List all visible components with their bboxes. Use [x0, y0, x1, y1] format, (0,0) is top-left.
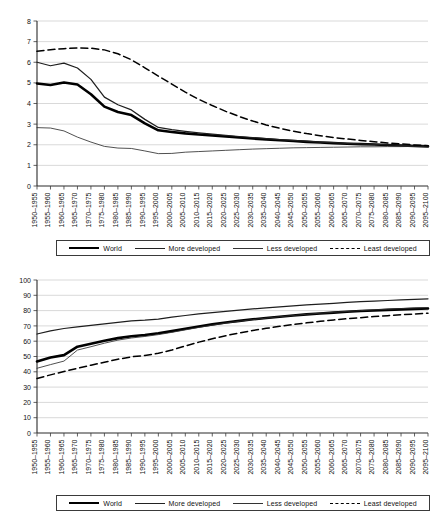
- legend-swatch-solid-med-icon: [135, 503, 165, 504]
- y-axis-tick-label: 2: [27, 141, 31, 148]
- legend-entry-world: World: [69, 245, 122, 252]
- life-expectancy-plot-area: 01020304050607080901001950–19551955–1960…: [0, 268, 444, 490]
- x-axis-tick-label: 1970–1975: [85, 439, 92, 474]
- y-axis-tick-label: 90: [23, 292, 31, 299]
- x-axis-tick-label: 2025–2030: [233, 439, 240, 474]
- x-axis-tick-label: 1975–1980: [98, 439, 105, 474]
- x-axis-tick-label: 1990–1995: [139, 439, 146, 474]
- x-axis-tick-label: 2065–2070: [341, 192, 348, 227]
- x-axis-tick-label: 2005–2010: [179, 192, 186, 227]
- y-axis-tick-label: 0: [27, 430, 31, 437]
- x-axis-tick-label: 2085–2090: [395, 439, 402, 474]
- fertility-chart-svg: 0123456781950–19551955–19601960–19651965…: [0, 0, 444, 233]
- x-axis-tick-label: 2020–2025: [220, 192, 227, 227]
- x-axis-tick-label: 1960–1965: [58, 439, 65, 474]
- life-expectancy-chart: 01020304050607080901001950–19551955–1960…: [0, 268, 444, 521]
- x-axis-tick-label: 2060–2065: [328, 192, 335, 227]
- x-axis-tick-label: 2005–2010: [179, 439, 186, 474]
- x-axis-tick-label: 2075–2080: [368, 439, 375, 474]
- legend-entry-least-developed: Least developed: [330, 245, 417, 252]
- x-axis-tick-label: 2090–2095: [409, 192, 416, 227]
- x-axis-tick-label: 2080–2085: [382, 192, 389, 227]
- legend-swatch-solid-med-icon: [135, 248, 165, 249]
- legend-swatch-dashed-icon: [330, 503, 360, 504]
- x-axis-tick-label: 2055–2060: [314, 192, 321, 227]
- x-axis-tick-label: 2040–2045: [274, 192, 281, 227]
- x-axis-tick-label: 2000–2005: [166, 439, 173, 474]
- x-axis-tick-label: 2075–2080: [368, 192, 375, 227]
- chart-page: 0123456781950–19551955–19601960–19651965…: [0, 0, 444, 521]
- x-axis-tick-label: 2000–2005: [166, 192, 173, 227]
- x-axis-tick-label: 1975–1980: [98, 192, 105, 227]
- x-axis-tick-label: 1955–1960: [44, 439, 51, 474]
- x-axis-tick-label: 1980–1985: [112, 439, 119, 474]
- series-line-less-developed: [37, 308, 428, 369]
- legend-swatch-dashed-icon: [330, 248, 360, 249]
- legend-swatch-solid-thin-icon: [233, 503, 263, 504]
- series-line-more-developed: [37, 128, 428, 154]
- y-axis-tick-label: 1: [27, 162, 31, 169]
- x-axis-tick-label: 2070–2075: [355, 439, 362, 474]
- y-axis-tick-label: 100: [19, 277, 31, 284]
- x-axis-tick-label: 1970–1975: [85, 192, 92, 227]
- y-axis-tick-label: 8: [27, 18, 31, 25]
- fertility-rate-chart: 0123456781950–19551955–19601960–19651965…: [0, 0, 444, 260]
- x-axis-tick-label: 1990–1995: [139, 192, 146, 227]
- legend-label: More developed: [169, 500, 221, 507]
- y-axis-tick-label: 5: [27, 79, 31, 86]
- x-axis-tick-label: 2095–2100: [422, 439, 429, 474]
- x-axis-tick-label: 1960–1965: [58, 192, 65, 227]
- legend-entry-more-developed: More developed: [135, 500, 221, 507]
- legend-label: More developed: [169, 245, 221, 252]
- x-axis-tick-label: 2015–2020: [206, 192, 213, 227]
- x-axis-tick-label: 2010–2015: [193, 439, 200, 474]
- y-axis-tick-label: 3: [27, 121, 31, 128]
- x-axis-tick-label: 2085–2090: [395, 192, 402, 227]
- x-axis-tick-label: 2060–2065: [328, 439, 335, 474]
- x-axis-tick-label: 1965–1970: [71, 192, 78, 227]
- x-axis-tick-label: 1955–1960: [44, 192, 51, 227]
- x-axis-tick-label: 1995–2000: [152, 439, 159, 474]
- legend-swatch-solid-thin-icon: [233, 248, 263, 249]
- x-axis-tick-label: 2045–2050: [287, 192, 294, 227]
- x-axis-tick-label: 1980–1985: [112, 192, 119, 227]
- y-axis-tick-label: 80: [23, 307, 31, 314]
- y-axis-tick-label: 6: [27, 59, 31, 66]
- x-axis-tick-label: 2025–2030: [233, 192, 240, 227]
- x-axis-tick-label: 2090–2095: [409, 439, 416, 474]
- fertility-chart-legend: WorldMore developedLess developedLeast d…: [56, 240, 430, 256]
- series-line-more-developed: [37, 299, 428, 334]
- x-axis-tick-label: 2050–2055: [301, 192, 308, 227]
- legend-entry-more-developed: More developed: [135, 245, 221, 252]
- legend-label: World: [103, 500, 122, 507]
- x-axis-tick-label: 2070–2075: [355, 192, 362, 227]
- x-axis-tick-label: 2030–2035: [247, 439, 254, 474]
- legend-label: Least developed: [364, 500, 417, 507]
- fertility-plot-area: 0123456781950–19551955–19601960–19651965…: [0, 0, 444, 233]
- life-expectancy-chart-svg: 01020304050607080901001950–19551955–1960…: [0, 268, 444, 490]
- y-axis-tick-label: 50: [23, 353, 31, 360]
- y-axis-tick-label: 4: [27, 100, 31, 107]
- x-axis-tick-label: 2035–2040: [260, 439, 267, 474]
- y-axis-tick-label: 10: [23, 414, 31, 421]
- x-axis-tick-label: 1995–2000: [152, 192, 159, 227]
- y-axis-tick-label: 20: [23, 399, 31, 406]
- y-axis-tick-label: 40: [23, 368, 31, 375]
- y-axis-tick-label: 7: [27, 38, 31, 45]
- y-axis-tick-label: 70: [23, 323, 31, 330]
- x-axis-tick-label: 2030–2035: [247, 192, 254, 227]
- x-axis-tick-label: 2055–2060: [314, 439, 321, 474]
- legend-entry-less-developed: Less developed: [233, 500, 317, 507]
- legend-entry-least-developed: Least developed: [330, 500, 417, 507]
- legend-label: Least developed: [364, 245, 417, 252]
- x-axis-tick-label: 2065–2070: [341, 439, 348, 474]
- x-axis-tick-label: 2010–2015: [193, 192, 200, 227]
- x-axis-tick-label: 2095–2100: [422, 192, 429, 227]
- x-axis-tick-label: 1985–1990: [125, 192, 132, 227]
- x-axis-tick-label: 1965–1970: [71, 439, 78, 474]
- legend-label: Less developed: [267, 500, 317, 507]
- y-axis-tick-label: 60: [23, 338, 31, 345]
- x-axis-tick-label: 2015–2020: [206, 439, 213, 474]
- life-expectancy-chart-legend: WorldMore developedLess developedLeast d…: [56, 495, 430, 511]
- x-axis-tick-label: 1950–1955: [31, 192, 38, 227]
